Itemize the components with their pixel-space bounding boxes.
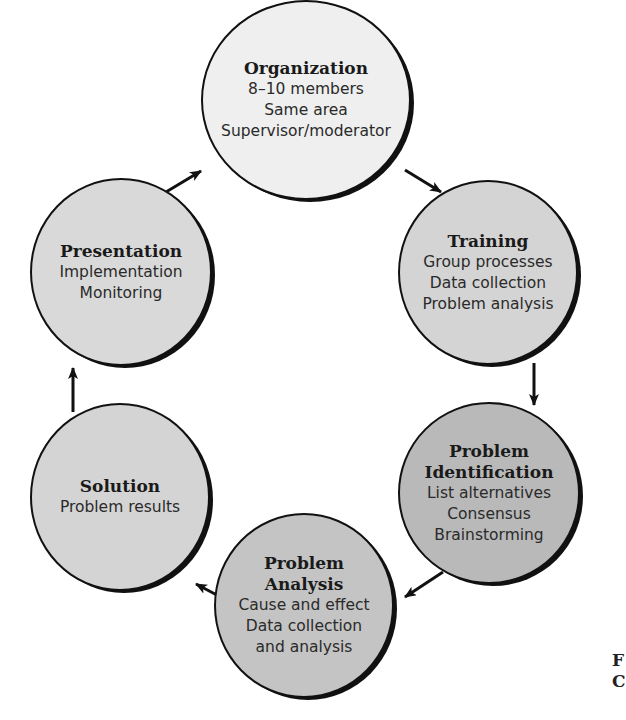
node-line: and analysis <box>256 637 353 658</box>
node-line: Group processes <box>423 252 552 273</box>
node-presentation: Presentation Implementation Monitoring <box>30 178 212 366</box>
node-title: Organization <box>244 58 368 79</box>
node-line: Brainstorming <box>434 525 543 546</box>
node-line: Implementation <box>59 262 182 283</box>
node-problem-analysis: Problem Analysis Cause and effect Data c… <box>214 513 394 698</box>
caption-fragment-line: F <box>612 650 626 671</box>
node-line: Data collection <box>246 616 362 637</box>
cropped-caption-fragment: F C <box>612 650 626 692</box>
node-title: Training <box>448 231 529 252</box>
caption-fragment-line: C <box>612 671 626 692</box>
node-line: Problem analysis <box>422 294 553 315</box>
node-line: Cause and effect <box>238 595 369 616</box>
node-title: Problem <box>449 441 529 462</box>
node-line: Consensus <box>447 504 531 525</box>
node-organization: Organization 8–10 members Same area Supe… <box>201 0 411 200</box>
node-title: Solution <box>80 476 160 497</box>
node-line: 8–10 members <box>248 79 364 100</box>
node-line: Same area <box>264 100 347 121</box>
arrow-organization-to-training <box>405 170 441 192</box>
node-line: List alternatives <box>427 483 551 504</box>
node-problem-identification: Problem Identification List alternatives… <box>398 402 580 584</box>
arrow-problem-identification-to-problem-analysis <box>405 572 443 597</box>
node-title: Problem <box>264 553 344 574</box>
node-line: Monitoring <box>80 283 163 304</box>
node-training: Training Group processes Data collection… <box>398 180 578 365</box>
node-title: Identification <box>424 462 553 483</box>
node-line: Problem results <box>60 497 180 518</box>
node-title: Presentation <box>60 241 182 262</box>
arrow-presentation-to-organization <box>166 171 201 192</box>
node-title: Analysis <box>265 574 344 595</box>
node-line: Data collection <box>430 273 546 294</box>
node-solution: Solution Problem results <box>30 403 210 591</box>
node-line: Supervisor/moderator <box>221 121 391 142</box>
